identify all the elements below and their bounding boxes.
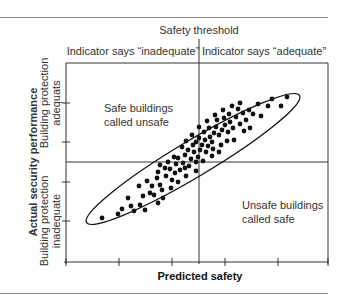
annotation-safe-called-unsafe: Safe buildings called unsafe bbox=[104, 101, 173, 129]
data-point bbox=[120, 207, 125, 212]
data-point bbox=[285, 95, 290, 100]
data-point bbox=[231, 126, 236, 131]
data-point bbox=[126, 196, 131, 201]
data-point bbox=[212, 131, 217, 136]
data-point bbox=[204, 150, 209, 155]
data-point bbox=[194, 140, 199, 145]
data-point bbox=[198, 148, 203, 153]
data-point bbox=[116, 212, 121, 217]
data-point bbox=[238, 101, 243, 106]
x-axis-label: Predicted safety bbox=[158, 270, 243, 283]
data-point bbox=[176, 156, 181, 161]
data-point bbox=[210, 154, 215, 159]
data-point bbox=[155, 176, 160, 181]
data-point bbox=[222, 116, 227, 121]
data-point bbox=[194, 160, 199, 165]
data-point bbox=[174, 162, 179, 167]
data-point bbox=[219, 143, 224, 148]
data-point bbox=[178, 168, 183, 173]
bottom-rule bbox=[0, 293, 328, 294]
data-point bbox=[256, 102, 261, 107]
data-point bbox=[158, 183, 163, 188]
data-point bbox=[181, 161, 186, 166]
data-point bbox=[150, 184, 155, 189]
data-point bbox=[184, 174, 189, 179]
data-point bbox=[163, 166, 168, 171]
annotation-line: called safe bbox=[242, 212, 323, 226]
data-point bbox=[259, 114, 264, 119]
data-point bbox=[220, 128, 225, 133]
data-point bbox=[206, 144, 211, 149]
data-point bbox=[214, 125, 219, 130]
data-point bbox=[201, 159, 206, 164]
data-point bbox=[205, 119, 210, 124]
data-point bbox=[183, 166, 188, 171]
data-point bbox=[160, 188, 165, 193]
scatter-plot bbox=[0, 0, 343, 303]
data-point bbox=[197, 125, 202, 130]
data-point bbox=[186, 148, 191, 153]
data-point bbox=[208, 135, 213, 140]
data-point bbox=[230, 104, 235, 109]
data-point bbox=[164, 174, 169, 179]
data-point bbox=[100, 216, 105, 221]
data-point bbox=[132, 209, 137, 214]
data-point bbox=[217, 133, 222, 138]
annotation-line: called unsafe bbox=[104, 115, 173, 129]
data-point bbox=[194, 169, 199, 174]
data-point bbox=[141, 194, 146, 199]
data-point bbox=[227, 112, 232, 117]
data-point bbox=[211, 147, 216, 152]
data-point bbox=[173, 171, 178, 176]
data-point bbox=[279, 104, 284, 109]
data-point bbox=[170, 178, 175, 183]
data-point bbox=[156, 201, 161, 206]
data-point bbox=[234, 115, 239, 120]
data-point bbox=[189, 157, 194, 162]
data-point bbox=[196, 155, 201, 160]
annotation-line: Safe buildings bbox=[104, 101, 173, 115]
data-point bbox=[200, 143, 205, 148]
data-point bbox=[161, 196, 166, 201]
data-point bbox=[225, 139, 230, 144]
data-point bbox=[270, 97, 275, 102]
data-point bbox=[228, 120, 233, 125]
data-point bbox=[242, 129, 247, 134]
data-point bbox=[238, 122, 243, 127]
data-point bbox=[172, 155, 177, 160]
data-point bbox=[251, 112, 256, 117]
data-point bbox=[248, 126, 253, 131]
data-point bbox=[213, 113, 218, 118]
annotation-unsafe-called-safe: Unsafe buildings called safe bbox=[242, 198, 323, 226]
data-point bbox=[180, 145, 185, 150]
data-point bbox=[232, 138, 237, 143]
data-point bbox=[168, 167, 173, 172]
data-point bbox=[266, 104, 271, 109]
data-point bbox=[203, 138, 208, 143]
data-point bbox=[156, 170, 161, 175]
data-point bbox=[129, 204, 134, 209]
data-point bbox=[244, 118, 249, 123]
data-point bbox=[247, 108, 252, 113]
data-point bbox=[241, 111, 246, 116]
data-point bbox=[169, 186, 174, 191]
data-point bbox=[143, 208, 148, 213]
data-point bbox=[190, 133, 195, 138]
data-point bbox=[176, 180, 181, 185]
data-point bbox=[158, 163, 163, 168]
annotation-line: Unsafe buildings bbox=[242, 198, 323, 212]
data-point bbox=[217, 150, 222, 155]
data-point bbox=[221, 108, 226, 113]
data-point bbox=[166, 160, 171, 165]
data-point bbox=[215, 118, 220, 123]
data-point bbox=[145, 179, 150, 184]
data-point bbox=[202, 130, 207, 135]
data-point bbox=[210, 140, 215, 145]
data-point bbox=[207, 126, 212, 131]
data-point bbox=[236, 107, 241, 112]
data-point bbox=[226, 130, 231, 135]
data-point bbox=[137, 184, 142, 189]
data-point bbox=[138, 203, 143, 208]
data-point bbox=[183, 153, 188, 158]
data-point bbox=[197, 136, 202, 141]
